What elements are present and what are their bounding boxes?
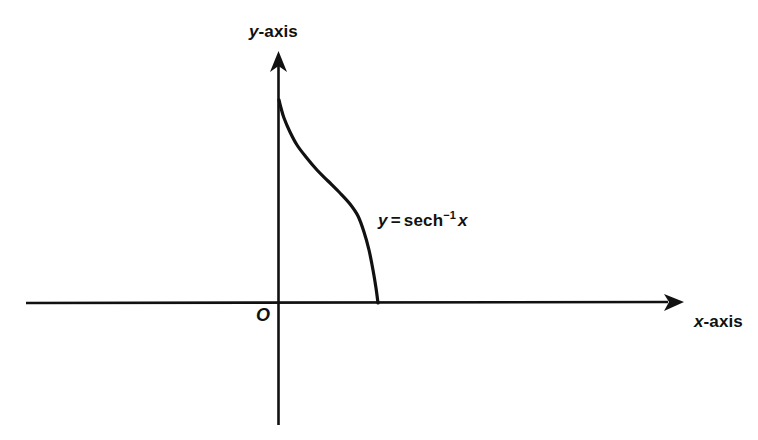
equation-function-name: sech <box>404 211 444 230</box>
curve-equation-annotation: y=sech−1x <box>378 209 468 231</box>
equation-lhs: y <box>378 211 388 230</box>
sech-inverse-curve <box>279 100 378 303</box>
equation-exponent: −1 <box>443 209 456 221</box>
x-axis-label-variable: x <box>694 312 704 331</box>
x-axis-line <box>26 302 668 303</box>
x-axis-label-suffix: -axis <box>704 312 743 331</box>
figure-canvas: y-axis x-axis O y=sech−1x <box>0 0 758 440</box>
x-axis-label: x-axis <box>694 312 743 332</box>
y-axis-label-variable: y <box>249 22 259 41</box>
equation-argument: x <box>458 211 468 230</box>
y-axis-label-suffix: -axis <box>259 22 298 41</box>
origin-label: O <box>256 305 270 326</box>
equation-equals-sign: = <box>388 211 404 230</box>
y-axis-label: y-axis <box>249 22 298 42</box>
